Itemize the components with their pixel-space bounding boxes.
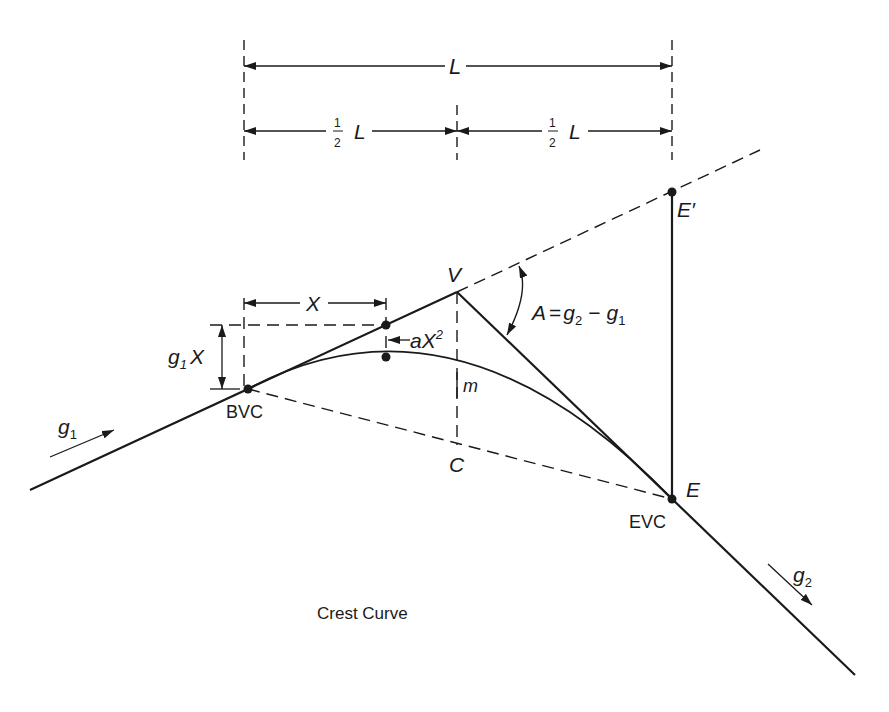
point-BVC (244, 385, 253, 394)
label-V: V (447, 263, 463, 286)
dimension-g1X (210, 325, 240, 389)
label-L: L (449, 54, 461, 79)
point-E-prime (668, 188, 677, 197)
svg-text:1: 1 (549, 116, 556, 130)
point-EVC (668, 495, 677, 504)
label-g2: g2 (793, 563, 812, 590)
svg-text:L: L (354, 120, 366, 143)
figure-caption: Crest Curve (317, 604, 408, 623)
svg-text:1: 1 (334, 116, 341, 130)
label-half-L-right: 1 2 L (548, 116, 581, 150)
svg-text:2: 2 (549, 136, 556, 150)
crest-curve-diagram: L 1 2 L 1 2 L X (0, 0, 889, 712)
label-g1: g1 (58, 415, 77, 442)
label-E-prime: E′ (677, 198, 696, 221)
label-m: m (463, 376, 478, 396)
label-BVC: BVC (226, 402, 263, 422)
label-g1X: g1X (168, 345, 205, 372)
g1-extension (457, 150, 760, 292)
chord-BVC-EVC (248, 389, 672, 499)
angle-arc-A (507, 266, 523, 335)
point-tangent-X (382, 321, 391, 330)
label-X: X (305, 292, 321, 315)
svg-text:2: 2 (334, 136, 341, 150)
grade-lines (30, 192, 855, 675)
label-aX2: aX2 (410, 327, 444, 352)
label-angle-A: A=g2−g1 (530, 301, 625, 328)
point-curve-X (382, 353, 391, 362)
label-C: C (449, 453, 465, 476)
label-EVC: EVC (629, 512, 666, 532)
label-half-L-left: 1 2 L (333, 116, 366, 150)
svg-text:L: L (569, 120, 581, 143)
vertical-curve (248, 351, 672, 499)
label-E: E (686, 478, 701, 501)
